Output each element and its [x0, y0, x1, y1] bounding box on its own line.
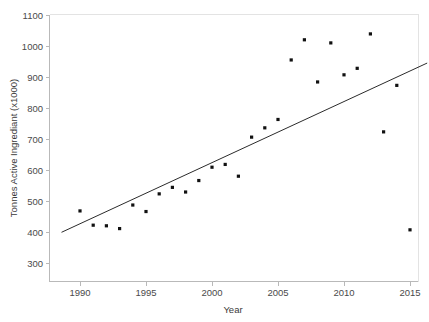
scatter-plot: 1100 1000 900 800 700 600 500 400 300 19…: [0, 0, 429, 322]
data-point: [131, 203, 134, 206]
x-tick-label: 1995: [135, 287, 156, 298]
data-point: [237, 175, 240, 178]
data-point: [144, 210, 147, 213]
data-point: [263, 126, 266, 129]
data-point: [171, 186, 174, 189]
plot-border-top-right: [50, 15, 419, 282]
axis-spines: [50, 15, 419, 282]
y-tick-label: 800: [27, 103, 43, 114]
y-tick-label: 600: [27, 165, 43, 176]
data-point: [78, 209, 81, 212]
data-point: [408, 228, 411, 231]
data-point: [382, 130, 385, 133]
y-tick-label: 1000: [22, 41, 43, 52]
y-tick-label: 300: [27, 258, 43, 269]
data-point: [224, 163, 227, 166]
data-point: [184, 190, 187, 193]
y-tick-label: 900: [27, 72, 43, 83]
data-point: [356, 67, 359, 70]
data-point: [303, 38, 306, 41]
data-point: [210, 166, 213, 169]
y-tick-label: 1100: [23, 10, 43, 21]
x-tick-label: 1990: [69, 287, 90, 298]
plot-frame: [50, 15, 419, 282]
y-axis-title: Tonnes Active Ingrediant (x1000): [8, 79, 19, 217]
data-point: [197, 179, 200, 182]
data-point: [290, 58, 293, 61]
data-point: [316, 80, 319, 83]
trend-line: [62, 63, 428, 232]
data-point: [92, 224, 95, 227]
y-tick-label: 500: [27, 196, 43, 207]
x-tick-label: 2000: [201, 287, 222, 298]
x-tick-label: 2010: [333, 287, 354, 298]
data-point: [118, 227, 121, 230]
x-axis-tick-labels: 1990 1995 2000 2005 2010 2015: [69, 287, 420, 298]
data-point: [158, 192, 161, 195]
data-point: [369, 32, 372, 35]
x-axis-ticks: [81, 282, 411, 286]
data-point: [395, 84, 398, 87]
data-point: [250, 136, 253, 139]
y-axis-tick-labels: 1100 1000 900 800 700 600 500 400 300: [22, 10, 43, 269]
chart-figure: 1100 1000 900 800 700 600 500 400 300 19…: [0, 0, 429, 322]
data-point: [276, 118, 279, 121]
y-tick-label: 700: [27, 134, 43, 145]
y-axis-ticks: [46, 16, 50, 264]
data-point: [342, 73, 345, 76]
data-point: [329, 41, 332, 44]
data-point: [105, 224, 108, 227]
y-tick-label: 400: [27, 227, 43, 238]
x-tick-label: 2005: [267, 287, 288, 298]
x-axis-title: Year: [223, 304, 242, 315]
x-tick-label: 2015: [399, 287, 420, 298]
